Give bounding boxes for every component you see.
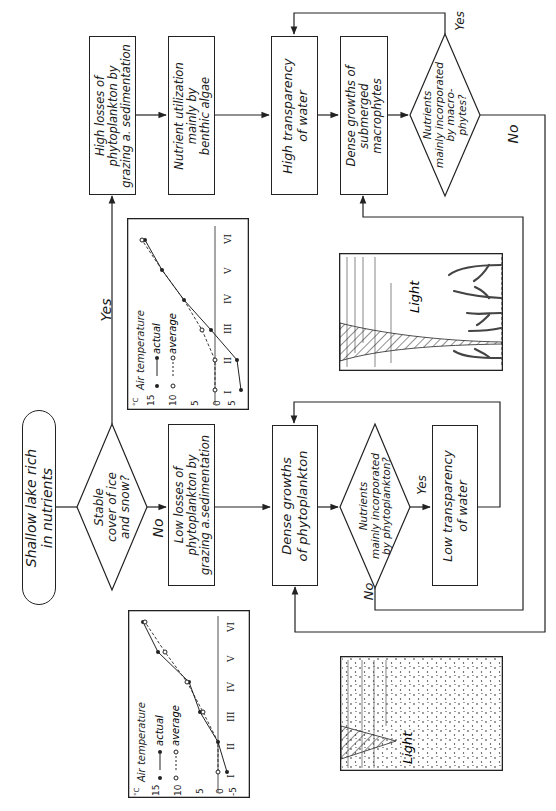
high-losses-box: High losses of phytoplankton by grazing … xyxy=(89,36,136,195)
clear-water-illustration: Light xyxy=(339,253,503,371)
svg-text:Air temperature: Air temperature xyxy=(136,702,147,783)
svg-text:III: III xyxy=(226,711,236,722)
start-node: Shallow lake rich in nutrients xyxy=(22,410,56,605)
svg-text:5: 5 xyxy=(195,788,205,794)
air-temperature-chart-no-ice: -5 0 5 10 15 °C I II III IV V VI Air tem… xyxy=(128,610,250,798)
box-text-line: High transparency xyxy=(280,58,295,173)
svg-text:IV: IV xyxy=(223,293,233,304)
svg-text:-5: -5 xyxy=(228,787,238,796)
svg-text:actual: actual xyxy=(151,323,162,354)
low-losses-box: Low losses of phytoplankton by grazing a… xyxy=(168,424,215,586)
svg-text:II: II xyxy=(226,742,236,750)
no-label-ice: No xyxy=(150,518,166,537)
low-transparency-box: Low transparency of water xyxy=(432,425,478,586)
box-text-line: Nutrient utilization xyxy=(172,62,185,169)
nutrient-benthic-box: Nutrient utilization mainly by benthic a… xyxy=(168,36,215,195)
svg-text:5: 5 xyxy=(227,400,237,406)
svg-text:0: 0 xyxy=(212,400,222,406)
start-text-line: Shallow lake rich xyxy=(23,448,39,566)
svg-text:0: 0 xyxy=(215,788,225,794)
decision-text-line: and snow? xyxy=(119,472,132,542)
svg-text:15: 15 xyxy=(146,395,156,406)
box-text-line: phytoplankton by xyxy=(106,44,119,188)
box-text-line: grazing a. sedimentation xyxy=(119,44,132,188)
svg-text:actual: actual xyxy=(154,715,165,746)
box-text-line: grazing a.sedimentation xyxy=(198,435,211,575)
svg-text:III: III xyxy=(223,323,233,334)
svg-text:10: 10 xyxy=(168,394,178,406)
svg-text:Air temperature: Air temperature xyxy=(135,310,146,391)
decision-text-line: phytes? xyxy=(457,62,469,168)
decision-phytoplankton: Nutrients mainly incorporated by phytopl… xyxy=(340,424,410,588)
dense-phytoplankton-box: Dense growths of phytoplankton xyxy=(272,425,318,586)
box-text-line: Dense growths xyxy=(279,450,295,561)
box-text-line: benthic algae xyxy=(198,62,211,169)
svg-text:II: II xyxy=(223,356,233,364)
no-label-macrophytes: No xyxy=(505,124,521,143)
svg-text:VI: VI xyxy=(226,622,236,633)
svg-text:15: 15 xyxy=(151,785,161,796)
light-label: Light xyxy=(400,731,415,764)
air-temperature-chart-ice: 5 0 5 10 15 °C I II III IV V VI Air temp… xyxy=(127,218,249,410)
svg-text:VI: VI xyxy=(223,234,233,245)
svg-text:IV: IV xyxy=(226,681,236,692)
box-text-line: phytoplankton by xyxy=(185,435,198,575)
svg-text:I: I xyxy=(226,774,236,778)
no-label-phytoplankton: No xyxy=(361,583,376,601)
decision-text-line: by phytoplankton? xyxy=(381,453,393,559)
decision-macrophytes: Nutrients mainly incorporated by macro- … xyxy=(410,34,480,196)
yes-label-ice: Yes xyxy=(98,299,114,322)
box-text-line: High losses of xyxy=(93,44,106,188)
svg-text:°C: °C xyxy=(133,788,141,797)
svg-text:V: V xyxy=(226,655,236,663)
decision-text-line: by macro- xyxy=(445,62,457,168)
box-text-line: of phytoplankton xyxy=(295,450,311,561)
box-text-line: macrophytes xyxy=(371,65,384,166)
dense-macrophytes-box: Dense growths of submerged macrophytes xyxy=(340,36,388,195)
light-label: Light xyxy=(407,280,422,313)
decision-text-line: Nutrients xyxy=(358,453,370,559)
turbid-water-illustration: Light xyxy=(340,656,503,771)
svg-text:°C: °C xyxy=(132,398,140,407)
box-text-line: mainly by xyxy=(185,62,198,169)
box-text-line: Low transparency xyxy=(440,450,455,562)
box-text-line: Low losses of xyxy=(172,435,185,575)
start-text-line: in nutrients xyxy=(39,448,55,566)
svg-text:average: average xyxy=(170,705,181,746)
box-text-line: of water xyxy=(295,58,310,173)
svg-text:5: 5 xyxy=(190,400,200,406)
svg-text:10: 10 xyxy=(173,784,183,796)
yes-label-macrophytes: Yes xyxy=(453,11,467,31)
box-text-line: of water xyxy=(455,450,470,562)
svg-text:I: I xyxy=(223,390,233,394)
svg-text:V: V xyxy=(223,267,233,275)
yes-label-phytoplankton: Yes xyxy=(415,475,429,495)
decision-text-line: Nutrients xyxy=(422,62,434,168)
high-transparency-box: High transparency of water xyxy=(271,36,318,195)
svg-text:average: average xyxy=(167,313,178,354)
decision-ice: Stable cover of ice and snow? xyxy=(77,424,147,590)
